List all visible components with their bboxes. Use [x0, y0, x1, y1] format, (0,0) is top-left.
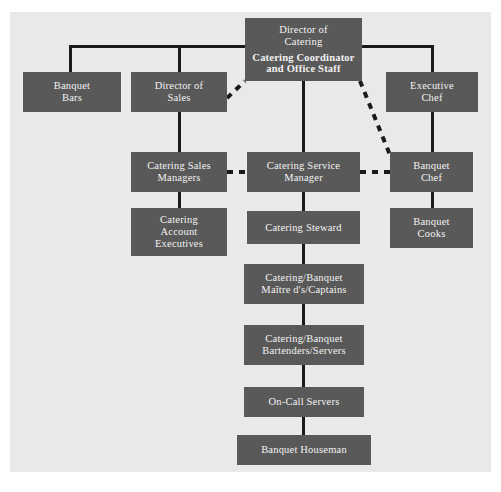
node-line: Director of: [155, 80, 204, 92]
node-line: Maître d's/Captains: [261, 284, 346, 296]
org-chart-root: Director of Catering Catering Coordinato…: [0, 0, 501, 492]
node-banquet-chef[interactable]: Banquet Chef: [390, 152, 473, 192]
node-line: Director of: [279, 24, 328, 36]
node-line: Catering Steward: [265, 222, 341, 234]
node-catering-account-executives[interactable]: Catering Account Executives: [131, 208, 227, 256]
node-line: and Office Staff: [252, 63, 354, 75]
node-banquet-bars[interactable]: Banquet Bars: [23, 72, 121, 112]
node-secondary-group: Catering Coordinator and Office Staff: [252, 52, 354, 76]
node-line: Catering: [160, 214, 198, 226]
node-line: Sales: [167, 92, 190, 104]
node-line: Banquet Houseman: [261, 444, 347, 456]
node-line: Catering Sales: [147, 160, 211, 172]
node-banquet-houseman[interactable]: Banquet Houseman: [237, 435, 371, 465]
node-banquet-cooks[interactable]: Banquet Cooks: [390, 208, 473, 248]
node-line: Chef: [421, 92, 442, 104]
node-line: Catering Service: [267, 160, 340, 172]
node-line: Executive: [410, 80, 454, 92]
node-line: On-Call Servers: [269, 396, 340, 408]
node-director-of-catering[interactable]: Director of Catering Catering Coordinato…: [245, 18, 362, 81]
node-line: Catering Coordinator: [252, 52, 354, 64]
node-line: Bars: [62, 92, 82, 104]
node-catering-banquet-maitre-ds-captains[interactable]: Catering/Banquet Maître d's/Captains: [244, 264, 364, 304]
node-line: Chef: [421, 172, 442, 184]
node-catering-banquet-bartenders-servers[interactable]: Catering/Banquet Bartenders/Servers: [244, 325, 364, 365]
node-line: Manager: [284, 172, 323, 184]
node-on-call-servers[interactable]: On-Call Servers: [244, 387, 364, 417]
node-line: Banquet: [413, 160, 449, 172]
node-director-of-sales[interactable]: Director of Sales: [131, 72, 227, 112]
node-line: Banquet: [54, 80, 90, 92]
node-line: Catering: [285, 36, 323, 48]
node-line: Executives: [155, 238, 203, 250]
node-line: Catering/Banquet: [265, 272, 342, 284]
node-catering-steward[interactable]: Catering Steward: [247, 211, 360, 244]
node-line: Bartenders/Servers: [262, 345, 346, 357]
node-line: Cooks: [418, 228, 446, 240]
node-catering-sales-managers[interactable]: Catering Sales Managers: [131, 152, 227, 192]
node-line: Managers: [157, 172, 200, 184]
node-catering-service-manager[interactable]: Catering Service Manager: [247, 152, 360, 192]
node-line: Banquet: [413, 216, 449, 228]
node-line: Account: [161, 226, 198, 238]
node-line: Catering/Banquet: [265, 333, 342, 345]
node-executive-chef[interactable]: Executive Chef: [386, 72, 478, 112]
